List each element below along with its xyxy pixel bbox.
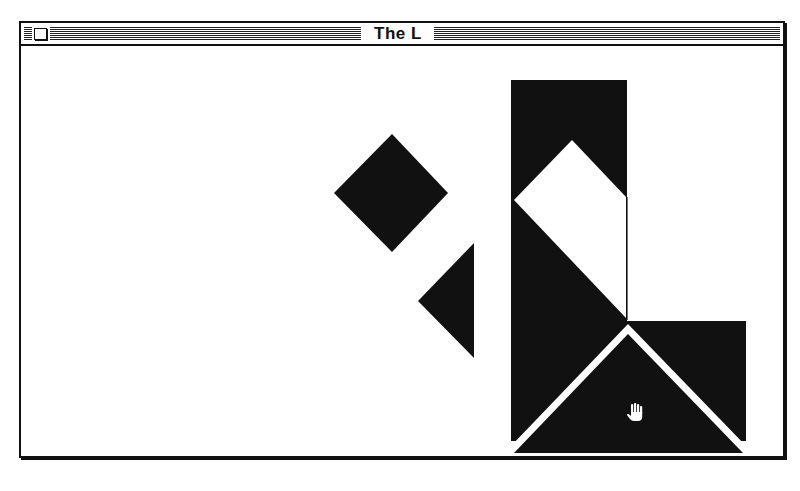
title-bar-stripes-left	[50, 27, 361, 40]
close-box-icon[interactable]	[34, 28, 47, 40]
title-bar[interactable]: The L	[21, 23, 783, 46]
window-title: The L	[364, 23, 432, 44]
square-piece[interactable]	[334, 134, 448, 252]
game-window: The L	[19, 21, 785, 458]
small-triangle-piece[interactable]	[418, 243, 474, 358]
game-board[interactable]	[21, 46, 783, 456]
title-bar-stripes-right	[434, 27, 780, 40]
title-bar-stripes-left	[24, 27, 32, 40]
tangram-canvas[interactable]	[21, 46, 783, 456]
screen: The L	[0, 0, 800, 491]
